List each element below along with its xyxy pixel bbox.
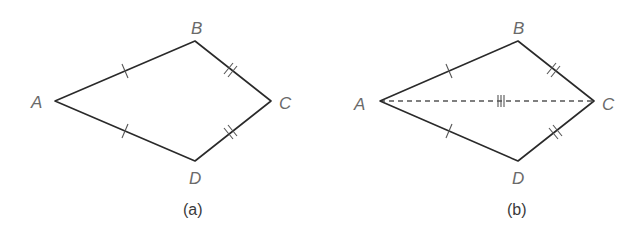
vertex-label-a: A [30,93,42,112]
vertex-label-b: B [191,19,202,38]
figure-b: A B C D (b) [353,19,615,218]
figure-caption-b: (b) [507,201,527,218]
kite-figures: A B C D (a) A B C D (b) [0,0,641,231]
tick-ab-a [122,64,128,78]
tick-ad-b [446,124,452,138]
tick-ab-b [446,64,452,78]
figure-a: A B C D (a) [30,19,292,218]
figure-caption-a: (a) [183,201,203,218]
vertex-label-c: C [602,95,615,114]
kite-abcd-a [55,41,271,161]
vertex-label-c: C [279,94,292,113]
vertex-label-a: A [353,95,365,114]
vertex-label-d: D [512,169,524,188]
tick-ad-a [122,124,128,138]
vertex-label-d: D [189,169,201,188]
vertex-label-b: B [513,19,524,38]
